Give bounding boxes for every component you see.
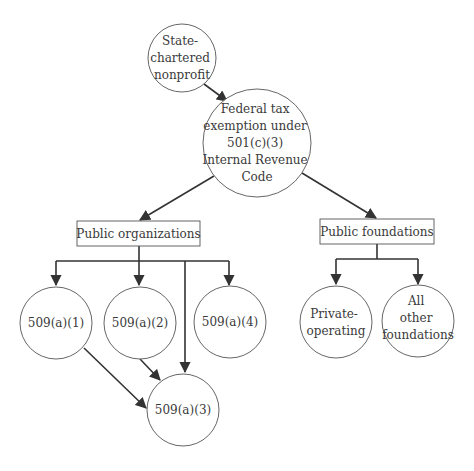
node-label: Public organizations	[76, 227, 200, 241]
node-label-line: nonprofit	[154, 68, 210, 82]
node-509a3: 509(a)(3)	[147, 374, 219, 446]
node-label: 509(a)(1)	[28, 316, 84, 330]
node-label: Public foundations	[320, 225, 433, 239]
node-label-line: All	[407, 294, 425, 308]
node-label-line: State-	[162, 34, 198, 48]
node-private-operating: Private- operating	[300, 286, 372, 358]
node-label: 509(a)(2)	[112, 316, 168, 330]
edge-509a2-to-509a3	[140, 359, 160, 380]
edge-federal-to-public-orgs	[140, 176, 214, 220]
node-public-foundations: Public foundations	[320, 219, 434, 244]
node-label-line: exemption under	[203, 119, 307, 133]
edge-state-to-federal	[204, 84, 227, 101]
diagram-canvas: State- chartered nonprofit Federal tax e…	[0, 0, 474, 471]
node-label: 509(a)(4)	[202, 315, 258, 329]
node-label-line: Internal Revenue	[202, 153, 307, 167]
node-label-line: chartered	[150, 51, 210, 65]
node-label-line: other	[400, 311, 433, 325]
node-label: 509(a)(3)	[155, 403, 211, 417]
node-all-other-foundations: All other foundations	[382, 285, 454, 357]
node-public-organizations: Public organizations	[76, 221, 200, 246]
node-label-line: 501(c)(3)	[227, 136, 283, 150]
node-federal-tax-exemption: Federal tax exemption under 501(c)(3) In…	[202, 89, 311, 197]
edge-federal-to-public-foundations	[302, 173, 376, 218]
node-label-line: Code	[241, 170, 272, 184]
node-509a2: 509(a)(2)	[104, 287, 176, 359]
node-label-line: Federal tax	[221, 102, 290, 116]
node-state-chartered-nonprofit: State- chartered nonprofit	[148, 24, 216, 92]
node-label-line: operating	[307, 324, 366, 338]
node-509a1: 509(a)(1)	[20, 287, 92, 359]
node-label-line: foundations	[382, 328, 454, 342]
node-509a4: 509(a)(4)	[194, 286, 266, 358]
node-label-line: Private-	[310, 307, 358, 321]
